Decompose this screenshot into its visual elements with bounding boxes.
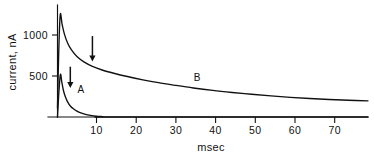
y-tick-label-500: 500: [29, 70, 48, 82]
annotation-arrow-curve-b: [89, 36, 95, 61]
x-axis-title: msec: [197, 141, 225, 153]
y-axis-title: current, nA: [6, 33, 18, 90]
curve-label-b: B: [194, 72, 201, 83]
x-tick-label-20: 20: [130, 124, 142, 136]
x-tick-label-40: 40: [209, 124, 221, 136]
data-curve-a: [58, 74, 369, 117]
curve-label-a: A: [77, 84, 84, 95]
chart-plot-area: 500 1000 current, nA 10 20 30 40 50 60 7…: [0, 0, 374, 161]
x-axis-ticks: [97, 117, 335, 123]
x-tick-label-30: 30: [170, 124, 182, 136]
x-tick-label-10: 10: [90, 124, 102, 136]
y-tick-label-1000: 1000: [23, 29, 48, 41]
x-tick-label-50: 50: [249, 124, 261, 136]
data-curve-b: [58, 14, 369, 108]
x-tick-label-60: 60: [289, 124, 301, 136]
annotation-arrow-curve-a: [67, 67, 73, 88]
x-tick-label-70: 70: [328, 124, 340, 136]
chart-figure: 500 1000 current, nA 10 20 30 40 50 60 7…: [0, 0, 374, 161]
